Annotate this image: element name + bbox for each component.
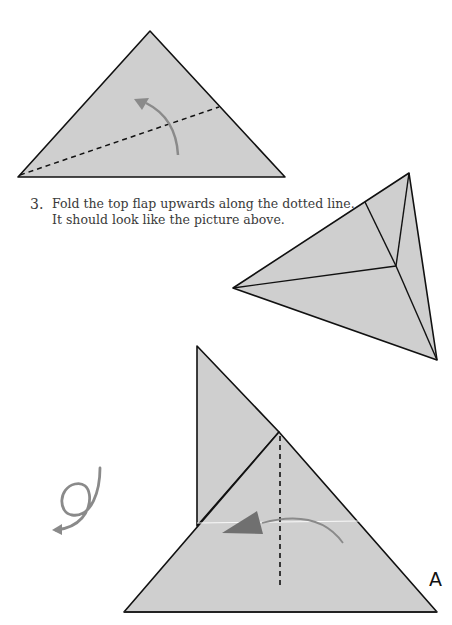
arrow-head-icon [52,524,62,535]
triangle-paper [18,31,285,177]
turn-over-symbol [52,468,100,535]
fold-triangle-bottom [124,346,437,612]
fold-triangle-top [18,31,285,177]
origami-diagram [0,0,452,625]
corner-label: A [429,568,442,590]
step-number: 3. [30,196,43,212]
turn-over-icon [56,468,100,530]
step-instruction: 3. Fold the top flap upwards along the d… [30,196,355,228]
step-text-line1: Fold the top flap upwards along the dott… [52,196,355,212]
step-text-line2: It should look like the picture above. [52,212,355,228]
